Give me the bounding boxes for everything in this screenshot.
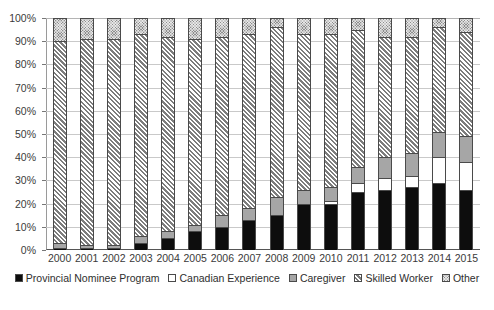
bar-segment[interactable] xyxy=(297,34,311,189)
bar-segment[interactable] xyxy=(270,18,284,27)
bar-segment[interactable] xyxy=(80,248,94,250)
bar-segment[interactable] xyxy=(432,27,446,131)
bar-segment[interactable] xyxy=(459,190,473,250)
bar-segment[interactable] xyxy=(80,18,94,39)
legend-item[interactable]: Provincial Nominee Program xyxy=(15,272,160,284)
bar-segment[interactable] xyxy=(378,18,392,37)
stacked-bar[interactable] xyxy=(161,18,175,250)
bar-slot xyxy=(127,18,154,250)
stacked-bar[interactable] xyxy=(188,18,202,250)
stacked-bar[interactable] xyxy=(215,18,229,250)
bar-segment[interactable] xyxy=(242,18,256,34)
y-axis-tick-label: 50% xyxy=(15,129,36,139)
stacked-bar[interactable] xyxy=(378,18,392,250)
bar-segment[interactable] xyxy=(432,157,446,183)
bar-segment[interactable] xyxy=(459,162,473,190)
stacked-bar[interactable] xyxy=(80,18,94,250)
bar-segment[interactable] xyxy=(351,192,365,250)
bar-segment[interactable] xyxy=(270,27,284,196)
bar-segment[interactable] xyxy=(242,34,256,208)
stacked-bar[interactable] xyxy=(405,18,419,250)
bar-segment[interactable] xyxy=(459,136,473,162)
bar-segment[interactable] xyxy=(215,215,229,227)
y-axis-tick-label: 10% xyxy=(15,222,36,232)
bar-segment[interactable] xyxy=(161,18,175,37)
bar-segment[interactable] xyxy=(53,41,67,243)
bar-segment[interactable] xyxy=(324,204,338,250)
bar-segment[interactable] xyxy=(351,18,365,30)
bar-segment[interactable] xyxy=(80,39,94,245)
bar-segment[interactable] xyxy=(378,190,392,250)
bar-segment[interactable] xyxy=(134,236,148,243)
bar-segment[interactable] xyxy=(351,183,365,192)
x-axis-tick-label: 2009 xyxy=(290,252,317,264)
stacked-bar[interactable] xyxy=(351,18,365,250)
bar-segment[interactable] xyxy=(405,18,419,37)
stacked-bar[interactable] xyxy=(297,18,311,250)
x-axis-tick-label: 2011 xyxy=(344,252,371,264)
bar-segment[interactable] xyxy=(53,18,67,41)
stacked-bar[interactable] xyxy=(324,18,338,250)
bar-segment[interactable] xyxy=(351,30,365,167)
bar-segment[interactable] xyxy=(215,227,229,250)
bar-segment[interactable] xyxy=(324,187,338,201)
bar-segment[interactable] xyxy=(297,190,311,204)
bar-slot xyxy=(46,18,73,250)
bar-segment[interactable] xyxy=(459,18,473,32)
bar-segment[interactable] xyxy=(297,204,311,250)
bar-segment[interactable] xyxy=(405,187,419,250)
bar-segment[interactable] xyxy=(378,37,392,158)
bar-segment[interactable] xyxy=(188,18,202,39)
bar-segment[interactable] xyxy=(53,248,67,250)
bar-segment[interactable] xyxy=(432,18,446,27)
legend-item[interactable]: Skilled Worker xyxy=(354,272,433,284)
bar-segment[interactable] xyxy=(405,37,419,153)
bar-segment[interactable] xyxy=(378,178,392,190)
bar-segment[interactable] xyxy=(107,39,121,245)
bar-segment[interactable] xyxy=(134,34,148,236)
stacked-bar[interactable] xyxy=(242,18,256,250)
bar-segment[interactable] xyxy=(378,157,392,178)
bar-segment[interactable] xyxy=(242,220,256,250)
bar-slot xyxy=(182,18,209,250)
bar-segment[interactable] xyxy=(297,18,311,34)
solid-gray-swatch xyxy=(289,274,297,282)
stacked-bar[interactable] xyxy=(134,18,148,250)
bar-segment[interactable] xyxy=(405,153,419,176)
bar-segment[interactable] xyxy=(188,39,202,225)
x-axis-tick-label: 2006 xyxy=(209,252,236,264)
bar-segment[interactable] xyxy=(459,32,473,136)
x-axis-tick-label: 2014 xyxy=(426,252,453,264)
bar-segment[interactable] xyxy=(324,18,338,34)
legend-item[interactable]: Caregiver xyxy=(289,272,346,284)
legend-item[interactable]: Canadian Experience xyxy=(168,272,279,284)
stacked-bar[interactable] xyxy=(107,18,121,250)
bar-segment[interactable] xyxy=(134,243,148,250)
stacked-bar[interactable] xyxy=(432,18,446,250)
legend-item[interactable]: Other xyxy=(442,272,479,284)
legend-label: Skilled Worker xyxy=(365,272,433,284)
stacked-bar[interactable] xyxy=(53,18,67,250)
bar-segment[interactable] xyxy=(134,18,148,34)
bar-segment[interactable] xyxy=(161,238,175,250)
x-axis-tick-label: 2015 xyxy=(453,252,480,264)
bar-segment[interactable] xyxy=(107,18,121,39)
bar-segment[interactable] xyxy=(324,34,338,187)
bar-segment[interactable] xyxy=(432,183,446,250)
stacked-bar[interactable] xyxy=(459,18,473,250)
bar-slot xyxy=(155,18,182,250)
bar-segment[interactable] xyxy=(215,18,229,37)
bar-segment[interactable] xyxy=(405,176,419,188)
bar-segment[interactable] xyxy=(161,37,175,232)
bar-segment[interactable] xyxy=(242,208,256,220)
bar-segment[interactable] xyxy=(270,197,284,216)
bar-segment[interactable] xyxy=(215,37,229,216)
bar-segment[interactable] xyxy=(107,248,121,250)
bar-segment[interactable] xyxy=(270,215,284,250)
bar-segment[interactable] xyxy=(188,225,202,232)
stacked-bar[interactable] xyxy=(270,18,284,250)
bar-segment[interactable] xyxy=(188,231,202,250)
bar-segment[interactable] xyxy=(351,167,365,183)
bar-segment[interactable] xyxy=(432,132,446,158)
bar-segment[interactable] xyxy=(161,231,175,238)
